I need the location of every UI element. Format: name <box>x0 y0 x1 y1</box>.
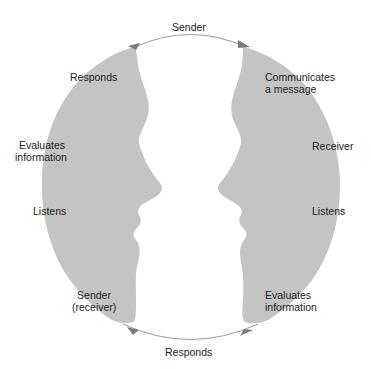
left-sender-line1: Sender <box>72 289 116 301</box>
left-evaluates-line1: Evaluates <box>15 139 65 151</box>
right-receiver-label: Receiver <box>312 140 353 152</box>
left-sender-label: Sender (receiver) <box>72 289 116 313</box>
diagram-graphic <box>0 0 371 369</box>
top-arc-label: Sender <box>172 21 206 33</box>
right-listens-text: Listens <box>312 205 345 217</box>
left-evaluates-line2: information <box>15 151 65 163</box>
bottom-arc <box>123 324 258 340</box>
right-receiver-text: Receiver <box>312 140 353 152</box>
right-communicates-line1: Communicates <box>265 71 335 83</box>
right-communicates-label: Communicates a message <box>265 71 335 95</box>
left-evaluates-label: Evaluates information <box>15 139 65 163</box>
right-evaluates-label: Evaluates information <box>265 289 317 313</box>
left-listens-label: Listens <box>33 205 66 217</box>
bottom-arc-label: Responds <box>165 346 212 358</box>
responds-label: Responds <box>165 346 212 358</box>
left-responds-text: Responds <box>70 71 117 83</box>
left-responds-label: Responds <box>70 71 117 83</box>
right-communicates-line2: a message <box>265 83 335 95</box>
left-sender-line2: (receiver) <box>72 301 116 313</box>
left-listens-text: Listens <box>33 205 66 217</box>
left-face-silhouette <box>42 47 162 323</box>
right-listens-label: Listens <box>312 205 345 217</box>
communication-cycle-diagram: Sender Responds Responds Evaluates infor… <box>0 0 371 369</box>
right-evaluates-line2: information <box>265 301 317 313</box>
top-arc <box>135 35 246 48</box>
right-evaluates-line1: Evaluates <box>265 289 317 301</box>
sender-label: Sender <box>172 21 206 33</box>
arrow-top-right-icon <box>238 40 250 48</box>
